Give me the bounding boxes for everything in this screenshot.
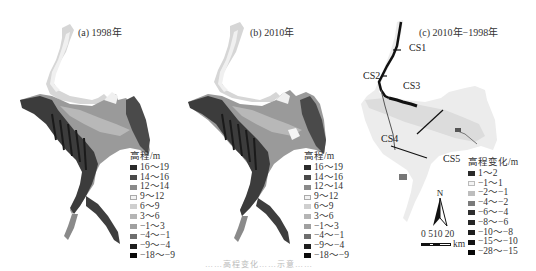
legend-swatch — [468, 201, 475, 206]
north-arrow-icon — [431, 198, 449, 226]
legend-swatch — [468, 220, 475, 225]
north-label: N — [431, 188, 449, 198]
elevation-legend: 高程/m 16～19 14～16 12～14 9～12 6～9 3～6 −1～3… — [130, 152, 175, 261]
legend-swatch — [130, 234, 137, 239]
legend-swatch — [130, 185, 137, 190]
legend-swatch — [304, 224, 311, 229]
legend-swatch — [130, 175, 137, 180]
legend-title: 高程/m — [304, 152, 349, 162]
legend-swatch — [304, 175, 311, 180]
elevation-change-legend: 高程变化/m 1～2 −1～1 −2～−1 −4～−2 −6～−4 −8～−6 … — [468, 158, 518, 257]
scale-ticks: 0 510 20 — [421, 229, 465, 239]
map-panel-change: (c) 2010年−1998年 CS1 CS2 CS3 CS4 CS5 N 0 … — [355, 0, 536, 250]
legend-swatch — [304, 185, 311, 190]
elevation-legend: 高程/m 16～19 14～16 12～14 9～12 6～9 3～6 −1～3… — [304, 152, 349, 261]
cross-section-label-cs3: CS3 — [403, 80, 420, 91]
cross-section-label-cs4: CS4 — [381, 133, 398, 144]
legend-swatch — [468, 240, 475, 245]
legend-swatch — [468, 230, 475, 235]
legend-swatch — [304, 244, 311, 249]
legend-swatch — [304, 214, 311, 219]
north-arrow: N — [431, 188, 449, 230]
legend-swatch — [468, 210, 475, 215]
legend-swatch — [130, 195, 137, 200]
cross-section-label-cs5: CS5 — [443, 153, 460, 164]
legend-swatch — [468, 171, 475, 176]
figure-caption-partial: ……高程变化……示意…… — [205, 258, 313, 269]
cross-section-label-cs1: CS1 — [409, 42, 426, 53]
legend-swatch — [130, 224, 137, 229]
legend-title: 高程变化/m — [468, 158, 518, 168]
cross-section-label-cs2: CS2 — [363, 70, 380, 81]
legend-swatch — [304, 165, 311, 170]
legend-swatch — [304, 234, 311, 239]
panel-title: (a) 1998年 — [78, 24, 122, 39]
scale-unit: km — [453, 239, 465, 249]
scale-bar: 0 510 20 km — [421, 229, 465, 249]
legend-swatch — [130, 244, 137, 249]
legend-swatch — [130, 204, 137, 209]
legend-label: −18～−9 — [140, 251, 175, 261]
legend-swatch — [468, 191, 475, 196]
legend-label: −18～−9 — [314, 251, 349, 261]
legend-title: 高程/m — [130, 152, 175, 162]
legend-label: −28～−15 — [478, 247, 518, 257]
legend-swatch — [468, 250, 475, 255]
legend-item: −18～−9 — [130, 251, 175, 261]
legend-item: −28～−15 — [468, 247, 518, 257]
panel-title: (b) 2010年 — [250, 24, 294, 39]
map-panel-2010: (b) 2010年 高程/m 16～19 14～16 12～14 9～12 6～… — [180, 0, 360, 250]
panel-title: (c) 2010年−1998年 — [419, 24, 498, 39]
scale-bar-graphic: km — [421, 239, 465, 249]
legend-swatch — [130, 214, 137, 219]
legend-swatch — [304, 204, 311, 209]
legend-swatch — [304, 195, 311, 200]
legend-swatch — [130, 253, 137, 258]
legend-swatch — [468, 181, 475, 186]
map-panel-1998: (a) 1998年 高程/m 16～19 14～16 12～14 9～12 6～… — [0, 0, 180, 250]
legend-swatch — [130, 165, 137, 170]
